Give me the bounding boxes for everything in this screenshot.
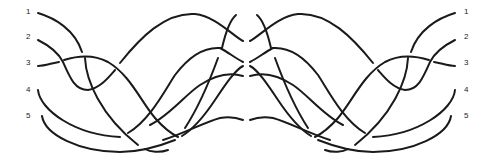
strand-segment — [411, 13, 455, 52]
strand-segment — [434, 62, 455, 66]
strand-segment — [273, 48, 365, 133]
strand-segment — [38, 62, 59, 66]
left-half — [38, 13, 243, 152]
braid-strands — [0, 0, 493, 164]
strand-segment — [38, 13, 82, 52]
strand-segment — [250, 48, 273, 62]
right-half — [250, 13, 455, 152]
strand-segment — [128, 48, 220, 133]
strand-segment — [250, 66, 311, 136]
strand-segment — [250, 117, 330, 140]
strand-segment — [220, 48, 243, 62]
strand-segment — [182, 66, 243, 136]
strand-segment — [163, 117, 243, 140]
